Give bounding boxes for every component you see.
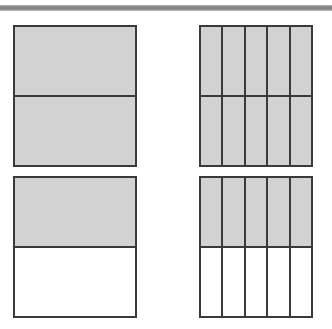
fraction-cell-shaded (268, 27, 288, 97)
fraction-model-column (201, 27, 223, 165)
fraction-model-column (223, 178, 245, 316)
fraction-cell-unshaded (201, 248, 221, 316)
fraction-cell-shaded (201, 178, 221, 248)
fraction-model-column (15, 178, 135, 316)
fraction-cell-shaded (223, 27, 243, 97)
fraction-model-column (291, 178, 311, 316)
fraction-model-top-left (13, 25, 137, 167)
fraction-model-column (268, 178, 290, 316)
fraction-model-column (223, 27, 245, 165)
fraction-cell-unshaded (268, 248, 288, 316)
fraction-cell-shaded (15, 97, 135, 165)
fraction-model-bottom-right (199, 176, 313, 318)
fraction-cell-shaded (246, 97, 266, 165)
fraction-model-column (268, 27, 290, 165)
fraction-cell-shaded (291, 97, 311, 165)
fraction-model-column (201, 178, 223, 316)
fraction-cell-unshaded (223, 248, 243, 316)
fraction-model-column (246, 178, 268, 316)
fraction-cell-shaded (201, 97, 221, 165)
fraction-cell-shaded (246, 178, 266, 248)
fraction-cell-unshaded (15, 248, 135, 316)
fraction-models-figure (0, 0, 332, 329)
fraction-cell-shaded (291, 178, 311, 248)
fraction-model-bottom-left (13, 176, 137, 318)
fraction-model-column (15, 27, 135, 165)
fraction-cell-shaded (15, 27, 135, 97)
fraction-cell-shaded (246, 27, 266, 97)
fraction-cell-shaded (268, 97, 288, 165)
fraction-model-column (291, 27, 311, 165)
fraction-model-column (246, 27, 268, 165)
fraction-cell-shaded (201, 27, 221, 97)
fraction-cell-shaded (291, 27, 311, 97)
fraction-cell-unshaded (291, 248, 311, 316)
fraction-cell-shaded (223, 178, 243, 248)
fraction-cell-shaded (268, 178, 288, 248)
fraction-cell-unshaded (246, 248, 266, 316)
fraction-cell-shaded (15, 178, 135, 248)
fraction-model-top-right (199, 25, 313, 167)
fraction-cell-shaded (223, 97, 243, 165)
horizontal-rule-divider (0, 5, 332, 11)
